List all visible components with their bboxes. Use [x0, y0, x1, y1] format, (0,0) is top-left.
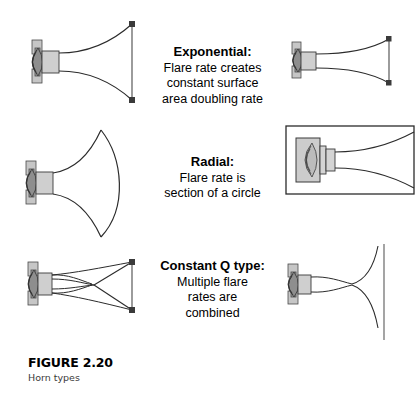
label-constant-q-line-3: combined: [140, 306, 285, 322]
figure-caption: FIGURE 2.20 Horn types: [28, 355, 268, 383]
driver-assembly: [288, 264, 311, 304]
constant-q-horn-small-drawing: [278, 244, 417, 344]
label-radial-title: Radial:: [140, 154, 285, 170]
label-radial: Radial: Flare rate is section of a circl…: [140, 154, 285, 202]
label-exponential: Exponential: Flare rate creates constant…: [140, 44, 285, 107]
label-radial-line-1: Flare rate is: [140, 171, 285, 187]
row-exponential: Exponential: Flare rate creates constant…: [0, 8, 417, 126]
label-exponential-line-1: Flare rate creates: [140, 61, 285, 77]
driver-assembly: [26, 161, 53, 204]
row-constant-q: Constant Q type: Multiple flare rates ar…: [0, 244, 417, 344]
label-exponential-title: Exponential:: [140, 44, 285, 60]
figure-caption-subtitle: Horn types: [28, 372, 268, 383]
constant-q-horn-large-drawing: [8, 244, 153, 344]
exponential-horn-small-drawing: [278, 8, 417, 126]
exponential-horn-large-drawing: [8, 8, 153, 126]
label-exponential-line-3: area doubling rate: [140, 92, 285, 108]
label-exponential-line-2: constant surface: [140, 76, 285, 92]
label-constant-q: Constant Q type: Multiple flare rates ar…: [140, 258, 285, 321]
figure-caption-title: FIGURE 2.20: [28, 355, 268, 370]
label-constant-q-line-1: Multiple flare: [140, 275, 285, 291]
driver-assembly: [32, 40, 59, 83]
label-radial-line-2: section of a circle: [140, 186, 285, 202]
figure-horn-types: Exponential: Flare rate creates constant…: [0, 0, 417, 394]
radial-horn-boxed-top-view-drawing: [278, 116, 417, 244]
label-constant-q-title: Constant Q type:: [140, 258, 285, 274]
row-radial: Radial: Flare rate is section of a circl…: [0, 116, 417, 244]
label-constant-q-line-2: rates are: [140, 290, 285, 306]
driver-assembly: [292, 42, 316, 78]
radial-horn-large-drawing: [8, 116, 153, 244]
driver-assembly: [28, 262, 52, 305]
